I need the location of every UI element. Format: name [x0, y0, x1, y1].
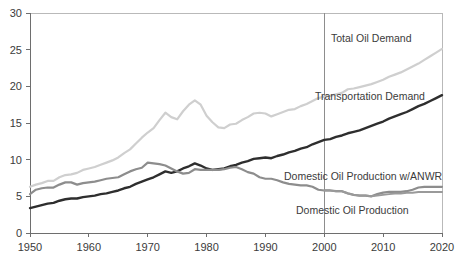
x-tick-label: 1970	[135, 241, 159, 253]
x-tick-label: 1980	[194, 241, 218, 253]
oil-demand-production-chart: 051015202530 195019601970198019902000201…	[0, 0, 463, 275]
y-tick-label: 25	[10, 44, 22, 56]
data-series-lines	[30, 49, 442, 208]
series-label-total-oil-demand: Total Oil Demand	[331, 32, 412, 44]
x-tick-label: 1950	[18, 241, 42, 253]
x-axis-ticks: 19501960197019801990200020102020	[18, 233, 454, 253]
series-label-transportation-demand: Transportation Demand	[315, 90, 425, 102]
y-tick-label: 20	[10, 80, 22, 92]
series-line-transportation-demand	[30, 95, 442, 208]
series-label-domestic-oil-production: Domestic Oil Production	[296, 204, 409, 216]
x-tick-label: 2010	[371, 241, 395, 253]
chart-canvas: 051015202530 195019601970198019902000201…	[0, 0, 463, 275]
series-label-domestic-oil-production-w-anwr: Domestic Oil Production w/ANWR	[284, 170, 443, 182]
x-tick-label: 1960	[77, 241, 101, 253]
x-tick-label: 1990	[253, 241, 277, 253]
x-tick-label: 2020	[430, 241, 454, 253]
y-tick-label: 5	[16, 190, 22, 202]
y-tick-label: 30	[10, 7, 22, 19]
y-tick-label: 0	[16, 227, 22, 239]
y-axis-ticks: 051015202530	[10, 7, 30, 239]
x-tick-label: 2000	[312, 241, 336, 253]
y-tick-label: 15	[10, 117, 22, 129]
y-tick-label: 10	[10, 154, 22, 166]
